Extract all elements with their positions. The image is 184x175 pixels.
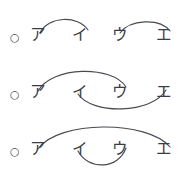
row-1-kana-a: ア [30, 28, 46, 44]
arc-above-a-e [38, 127, 170, 149]
row-2-kana-a: ア [30, 85, 46, 101]
diagram-row-2: ○ ア イ ウ エ [0, 57, 184, 115]
row-3-kana-u: ウ [112, 142, 128, 158]
row-2-bullet: ○ [10, 89, 20, 100]
row-3-kana-e: エ [156, 142, 172, 158]
row-2-kana-u: ウ [112, 85, 128, 101]
row-1-bullet: ○ [10, 32, 20, 43]
row-3-kana-i: イ [72, 142, 88, 158]
katakana-association-diagram: ○ ア イ ウ エ ○ ア イ ウ エ ○ ア イ ウ エ [0, 0, 184, 175]
diagram-row-1: ○ ア イ ウ エ [0, 0, 184, 58]
row-2-kana-i: イ [72, 85, 88, 101]
row-2-kana-e: エ [156, 85, 172, 101]
row-1-kana-i: イ [72, 28, 88, 44]
row-1-kana-e: エ [156, 28, 172, 44]
row-1-kana-u: ウ [112, 28, 128, 44]
row-3-kana-a: ア [30, 142, 46, 158]
diagram-row-3: ○ ア イ ウ エ [0, 114, 184, 172]
row-3-bullet: ○ [10, 146, 20, 157]
